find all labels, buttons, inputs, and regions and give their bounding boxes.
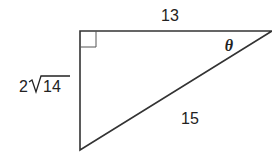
right-angle-marker xyxy=(80,31,96,47)
top-side-label: 13 xyxy=(161,7,179,24)
left-side-label: 2 14 xyxy=(19,76,70,95)
left-side-coefficient: 2 xyxy=(19,78,28,95)
angle-theta-label: θ xyxy=(225,37,234,54)
hypotenuse-label: 15 xyxy=(181,110,199,127)
triangle-diagram: 13 θ 15 2 14 xyxy=(0,0,272,156)
triangle-shape xyxy=(80,31,272,150)
left-side-radicand: 14 xyxy=(43,78,61,95)
triangle-figure: 13 θ 15 2 14 xyxy=(0,0,272,156)
